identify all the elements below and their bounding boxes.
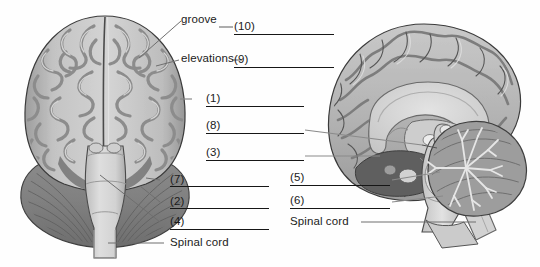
answer-blank-6[interactable]	[290, 208, 390, 209]
label-number-9: (9)	[234, 53, 248, 65]
answer-blank-3[interactable]	[206, 160, 304, 161]
label-number-6: (6)	[290, 194, 304, 206]
label-number-7: (7)	[170, 173, 184, 185]
label-number-3: (3)	[206, 146, 220, 158]
label-number-2: (2)	[170, 195, 184, 207]
answer-blank-5[interactable]	[290, 185, 390, 186]
answer-blank-7[interactable]	[170, 186, 269, 187]
label-number-4: (4)	[170, 215, 184, 227]
label-number-10: (10)	[234, 20, 255, 32]
label-spinal-cord-left: Spinal cord	[170, 236, 229, 248]
answer-blank-9[interactable]	[234, 67, 334, 68]
label-elevations: elevations	[181, 52, 234, 64]
label-number-8: (8)	[206, 119, 220, 131]
label-number-1: (1)	[206, 92, 220, 104]
midsagittal-brain-figure	[316, 18, 538, 250]
label-spinal-cord-right: Spinal cord	[290, 215, 349, 227]
worksheet-page: groove elevations (10) (9) (1) (8) (3) (…	[0, 0, 540, 267]
answer-blank-1[interactable]	[206, 106, 304, 107]
cerebellum-sagittal	[428, 121, 526, 216]
label-groove: groove	[181, 13, 217, 25]
answer-blank-2[interactable]	[170, 208, 269, 209]
answer-blank-4[interactable]	[170, 229, 269, 230]
answer-blank-10[interactable]	[234, 34, 334, 35]
answer-blank-8[interactable]	[206, 133, 304, 134]
label-number-5: (5)	[290, 171, 304, 183]
